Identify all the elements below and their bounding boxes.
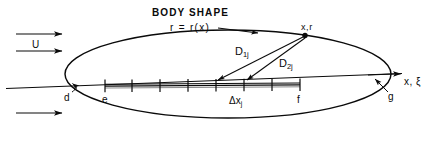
field-point-label: x,r [301,23,313,32]
distance-d2j-subscript: 2j [287,62,293,71]
panel-band [105,83,300,88]
distance-d1j-label: D1j [235,46,249,59]
figure-canvas: BODY SHAPE r = r(x) x,r D1j D2j U d e Δx… [0,0,433,142]
body-shape-title: BODY SHAPE [152,8,229,18]
distance-d1j-subscript: 1j [243,50,249,59]
panel-width-subscript: j [241,100,243,107]
body-outline [65,30,391,118]
distance-line-d2j [247,38,305,80]
tail-point-label: g [388,92,394,102]
axis-arrow [368,74,401,75]
panel-width-label: Δxj [229,96,242,108]
distance-d2j-base: D [279,57,287,69]
distance-d1j-base: D [235,45,243,57]
panel-width-base: Δx [229,95,241,106]
freestream-velocity-label: U [32,40,39,50]
axis-label: x, ξ [404,77,421,87]
nose-point-label: d [64,93,70,103]
radius-function-label: r = r(x) [170,23,210,33]
panel-end-label: f [297,95,300,105]
distance-d2j-label: D2j [279,58,293,71]
panel-start-label: e [102,95,108,105]
diagram-vector-layer [0,0,433,142]
